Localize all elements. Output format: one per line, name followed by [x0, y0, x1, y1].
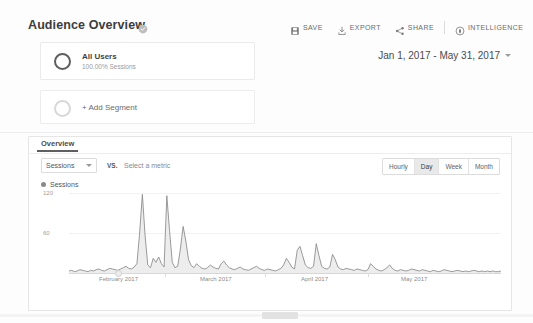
chart-legend: Sessions — [41, 181, 78, 188]
share-button-label: SHARE — [408, 24, 434, 31]
x-axis-tick-may: May 2017 — [401, 276, 427, 282]
chevron-down-icon — [505, 54, 511, 57]
intelligence-button[interactable]: INTELLIGENCE — [448, 19, 530, 35]
x-axis-separator — [165, 273, 166, 277]
y-axis-tick-60: 60 — [43, 230, 50, 236]
sessions-chart: Sessions 120 60 February 201 — [29, 181, 513, 295]
share-button[interactable]: SHARE — [388, 19, 441, 35]
granularity-day[interactable]: Day — [415, 159, 440, 174]
scrollbar-thumb[interactable] — [262, 312, 298, 319]
page-header: Audience Overview SAVE — [28, 18, 508, 40]
add-segment-button[interactable]: + Add Segment — [40, 90, 255, 124]
y-axis-tick-120: 120 — [43, 190, 53, 196]
overview-panel: Overview Sessions VS. Select a metric Ho… — [28, 136, 512, 311]
analytics-page: Audience Overview SAVE — [0, 0, 533, 323]
segment-ring-icon — [54, 53, 71, 70]
page-title: Audience Overview — [28, 18, 145, 32]
save-button[interactable]: SAVE — [283, 19, 330, 35]
chevron-down-icon — [86, 164, 92, 167]
granularity-hourly[interactable]: Hourly — [383, 159, 415, 174]
segment-card-all-users[interactable]: All Users 100.00% Sessions — [40, 42, 255, 80]
segment-name: All Users — [82, 52, 117, 61]
x-axis-separator — [368, 273, 369, 277]
export-button[interactable]: EXPORT — [330, 19, 388, 35]
tab-overview[interactable]: Overview — [37, 139, 78, 152]
date-range-text: Jan 1, 2017 - May 31, 2017 — [378, 50, 500, 61]
x-axis-tick-february: February 2017 — [99, 276, 138, 282]
intelligence-icon — [455, 22, 465, 32]
segment-subtitle: 100.00% Sessions — [82, 63, 136, 70]
add-segment-label: + Add Segment — [82, 103, 137, 112]
vs-label: VS. — [107, 162, 117, 169]
granularity-group: Hourly Day Week Month — [382, 158, 500, 175]
save-button-label: SAVE — [303, 24, 323, 31]
granularity-week[interactable]: Week — [439, 159, 469, 174]
intelligence-button-label: INTELLIGENCE — [468, 24, 523, 31]
save-floppy-icon — [290, 22, 300, 32]
granularity-month[interactable]: Month — [469, 159, 499, 174]
x-axis-tick-april: April 2017 — [301, 276, 328, 282]
metric-controls-row: Sessions VS. Select a metric Hourly Day … — [29, 155, 511, 179]
primary-metric-value: Sessions — [46, 162, 74, 169]
add-segment-ring-icon — [54, 100, 71, 117]
date-range-picker[interactable]: Jan 1, 2017 - May 31, 2017 — [378, 50, 511, 61]
segment-bar: All Users 100.00% Sessions + Add Segment — [40, 42, 255, 130]
export-button-label: EXPORT — [350, 24, 381, 31]
primary-metric-select[interactable]: Sessions — [41, 158, 97, 173]
header-divider — [0, 132, 533, 133]
chart-plot-area: 120 60 February 2017 March 2017 Apr — [43, 193, 501, 285]
horizontal-scrollbar[interactable] — [0, 312, 533, 319]
export-download-icon — [337, 22, 347, 32]
x-axis-tick-march: March 2017 — [200, 276, 232, 282]
toolbar-divider — [444, 21, 445, 34]
series-color-dot — [41, 182, 46, 187]
x-axis-line — [69, 273, 501, 274]
secondary-metric-select[interactable]: Select a metric — [124, 162, 170, 169]
verified-badge-icon — [138, 20, 148, 30]
share-nodes-icon — [395, 22, 405, 32]
report-toolbar: SAVE EXPORT — [283, 19, 530, 35]
x-axis-separator — [265, 273, 266, 277]
panel-tabstrip: Overview — [29, 137, 511, 154]
series-label: Sessions — [50, 181, 78, 188]
chart-series-svg — [69, 193, 501, 273]
